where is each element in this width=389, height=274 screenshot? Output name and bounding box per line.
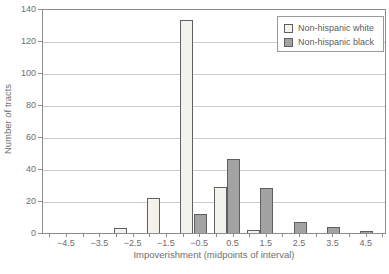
bar-white--0.5	[180, 20, 193, 233]
y-tick-label-100: 100	[2, 68, 36, 78]
x-tick-0.5	[233, 233, 234, 237]
y-tick-140	[38, 9, 42, 10]
legend-label-white: Non-hispanic white	[298, 23, 374, 33]
legend-swatch-black	[284, 38, 293, 47]
x-tick-3.5	[332, 233, 333, 237]
x-tick--3.5	[99, 233, 100, 237]
x-tick--2.5	[133, 233, 134, 237]
gridline-40	[43, 170, 385, 171]
legend-item-nonhispanic-black: Non-hispanic black	[284, 35, 383, 49]
bar-white--1.5	[147, 198, 160, 233]
y-tick-100	[38, 73, 42, 74]
x-tick-label--0.5: −0.5	[182, 238, 216, 248]
x-tick-2.5	[299, 233, 300, 237]
x-tick-label-3.5: 3.5	[315, 238, 349, 248]
y-tick-label-20: 20	[2, 196, 36, 206]
x-axis-title: Impoverishment (midpoints of interval)	[42, 249, 386, 260]
x-tick-label--3.5: −3.5	[82, 238, 116, 248]
x-tick-3.5-minor	[349, 233, 350, 237]
x-tick-1.5-minor	[282, 233, 283, 237]
legend: Non-hispanic white Non-hispanic black	[277, 16, 384, 52]
legend-label-black: Non-hispanic black	[298, 37, 374, 47]
legend-item-nonhispanic-white: Non-hispanic white	[284, 21, 383, 35]
x-tick--4.5	[66, 233, 67, 237]
y-tick-60	[38, 137, 42, 138]
x-tick-label--2.5: −2.5	[116, 238, 150, 248]
y-tick-label-60: 60	[2, 132, 36, 142]
x-tick--3.5-minor	[116, 233, 117, 237]
x-tick-4.5	[366, 233, 367, 237]
x-tick-0.5-minor	[249, 233, 250, 237]
legend-swatch-white	[284, 24, 293, 33]
x-tick-label-4.5: 4.5	[349, 238, 383, 248]
x-tick-1.5	[266, 233, 267, 237]
bar-white-0.5	[214, 187, 227, 233]
gridline-80	[43, 106, 385, 107]
y-tick-label-80: 80	[2, 100, 36, 110]
y-tick-120	[38, 41, 42, 42]
x-tick-label-0.5: 0.5	[216, 238, 250, 248]
bar-black-3.5	[327, 227, 340, 233]
bar-black-4.5	[360, 231, 373, 233]
histogram-figure: Number of tracts 020406080100120140 −4.5…	[0, 0, 389, 274]
bar-black-2.5	[294, 222, 307, 233]
y-tick-0	[38, 233, 42, 234]
y-tick-label-0: 0	[2, 228, 36, 238]
gridline-60	[43, 138, 385, 139]
x-tick-label-2.5: 2.5	[282, 238, 316, 248]
bar-black-0.5	[227, 159, 240, 233]
x-tick--2.5-minor	[149, 233, 150, 237]
x-tick--1.5-minor	[183, 233, 184, 237]
y-tick-label-140: 140	[2, 4, 36, 14]
x-tick-label--4.5: −4.5	[49, 238, 83, 248]
x-tick--0.5-minor	[216, 233, 217, 237]
y-tick-80	[38, 105, 42, 106]
y-tick-label-40: 40	[2, 164, 36, 174]
bar-black-1.5	[260, 188, 273, 233]
x-tick-label-1.5: 1.5	[249, 238, 283, 248]
y-tick-label-120: 120	[2, 36, 36, 46]
y-tick-20	[38, 201, 42, 202]
bar-black--0.5	[194, 214, 207, 233]
x-tick-2.5-minor	[316, 233, 317, 237]
y-tick-40	[38, 169, 42, 170]
x-tick--0.5	[199, 233, 200, 237]
x-tick--1.5	[166, 233, 167, 237]
x-tick-4.5-minor	[382, 233, 383, 237]
gridline-100	[43, 74, 385, 75]
x-tick-label--1.5: −1.5	[149, 238, 183, 248]
x-tick--4.5-minor	[83, 233, 84, 237]
x-tick--4.5-minor	[49, 233, 50, 237]
